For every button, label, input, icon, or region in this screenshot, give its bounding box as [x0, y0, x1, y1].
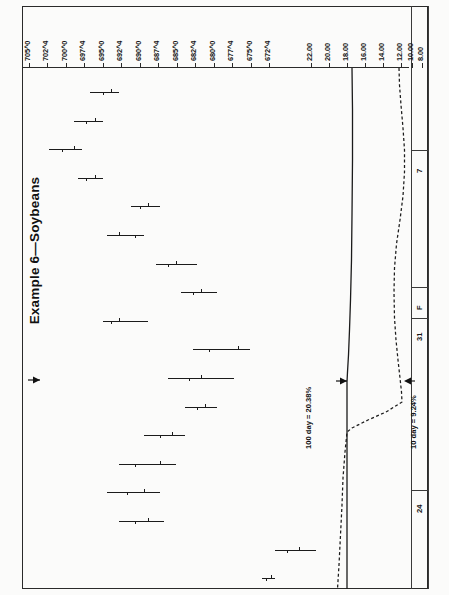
hundred-day-arrow-marker [336, 378, 347, 385]
date-label-2: 31 [415, 333, 424, 341]
date-tick-1 [411, 287, 428, 288]
ten-day-arrow-marker [404, 378, 415, 385]
indicator-curves [0, 0, 449, 595]
left-edge-arrow-marker [28, 377, 40, 384]
date-tick-3 [411, 490, 428, 491]
date-tick-0 [411, 150, 428, 151]
date-tick-2 [411, 318, 428, 319]
date-label-3: 24 [415, 505, 424, 513]
date-label-0: 7 [415, 169, 424, 173]
date-label-1: F [415, 305, 424, 310]
hundred-day-volatility-line [347, 68, 353, 589]
ten-day-annotation: 10 day = 9.24% [409, 395, 418, 449]
hundred-day-annotation: 100 day = 20.38% [304, 387, 313, 449]
